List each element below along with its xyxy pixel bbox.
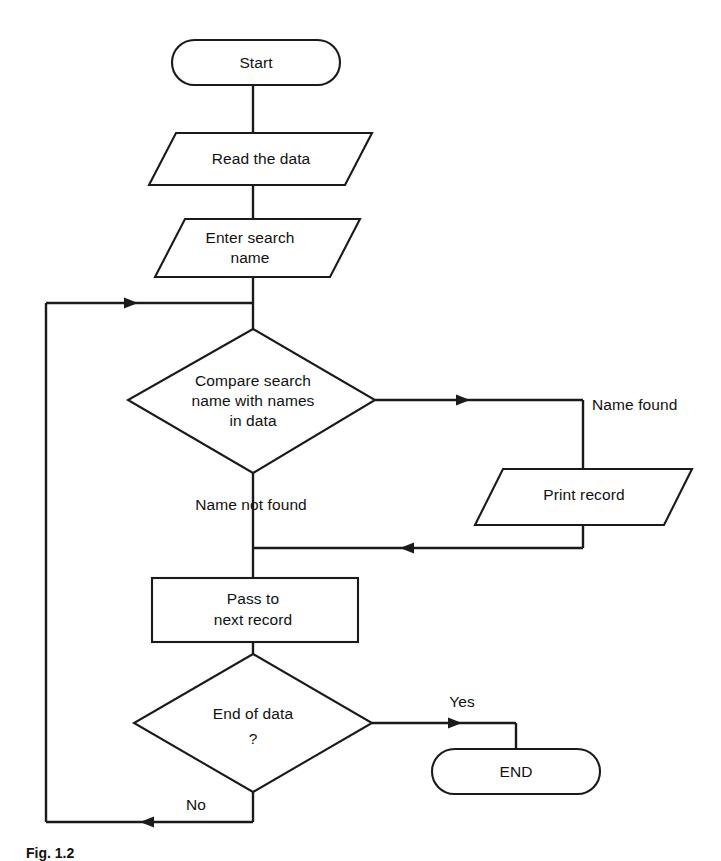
node-compare-label-line3: in data	[229, 412, 277, 429]
arrowhead-loopback-top	[124, 298, 138, 309]
node-enter-search-name[interactable]	[155, 219, 360, 277]
arrowhead-merge-left	[400, 543, 414, 554]
figure-caption: Fig. 1.2	[26, 845, 74, 861]
arrowhead-name-found	[456, 395, 470, 406]
node-pass-label-line1: Pass to	[227, 590, 279, 607]
node-compare-label-line1: Compare search	[195, 372, 311, 389]
arrowhead-no	[140, 817, 154, 828]
edge-label-yes: Yes	[449, 693, 475, 710]
node-compare-label-line2: name with names	[192, 392, 315, 409]
node-enter-search-name-label-line2: name	[230, 249, 269, 266]
node-end-of-data-label-line2: ?	[249, 730, 258, 747]
node-end-of-data-label-line1: End of data	[213, 705, 294, 722]
node-print-record-label: Print record	[543, 486, 624, 503]
node-read-the-data-label: Read the data	[212, 150, 311, 167]
edge-label-name-not-found: Name not found	[195, 496, 307, 513]
node-end-of-data[interactable]	[134, 654, 372, 792]
node-pass-to-next-record[interactable]	[152, 578, 358, 642]
edge-label-no: No	[186, 796, 206, 813]
node-start-label: Start	[239, 54, 273, 71]
node-pass-label-line2: next record	[214, 611, 293, 628]
node-enter-search-name-label-line1: Enter search	[205, 229, 294, 246]
edge-label-name-found: Name found	[592, 396, 677, 413]
arrowhead-yes	[448, 718, 462, 729]
node-end-label: END	[499, 763, 532, 780]
